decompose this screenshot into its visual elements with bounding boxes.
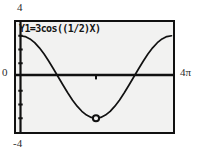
x-axis-max-label: 4π [180, 67, 191, 78]
y-axis-zero-label: 0 [2, 67, 8, 78]
calculator-screen: 4 -4 0 4π Y1=3cos((1/2)X) [0, 0, 207, 155]
graph-canvas [16, 22, 173, 132]
y-axis-max-label: 4 [17, 2, 23, 13]
trace-cursor-marker[interactable] [93, 115, 99, 121]
equation-label: Y1=3cos((1/2)X) [19, 23, 100, 35]
graph-plot-area[interactable]: Y1=3cos((1/2)X) [14, 20, 175, 134]
y-axis-min-label: -4 [13, 138, 22, 149]
trace-cursor[interactable] [93, 115, 99, 121]
